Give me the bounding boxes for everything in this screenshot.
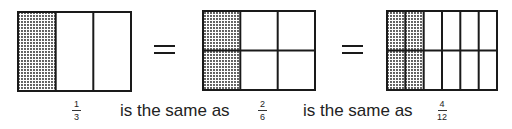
numerator: 2	[260, 99, 265, 109]
fraction-one-third: 1 3	[72, 99, 81, 122]
numerator: 1	[74, 99, 79, 109]
equals-sign	[154, 46, 175, 53]
fraction-bar	[438, 110, 447, 111]
shaded-region	[18, 12, 56, 91]
denominator: 3	[74, 112, 79, 122]
fraction-bar	[72, 110, 81, 111]
denominator: 6	[260, 112, 265, 122]
equals-sign	[342, 46, 363, 53]
fraction-two-sixths: 2 6	[258, 99, 267, 122]
phrase-same-as: is the same as	[303, 101, 413, 121]
fraction-four-twelfths: 4 12	[437, 99, 447, 122]
fraction-bar	[258, 110, 267, 111]
figure-four-twelfths	[387, 11, 497, 90]
numerator: 4	[440, 99, 445, 109]
figure-one-third	[18, 12, 131, 91]
phrase-same-as: is the same as	[120, 101, 230, 121]
denominator: 12	[437, 112, 447, 122]
figure-two-sixths	[203, 11, 315, 90]
